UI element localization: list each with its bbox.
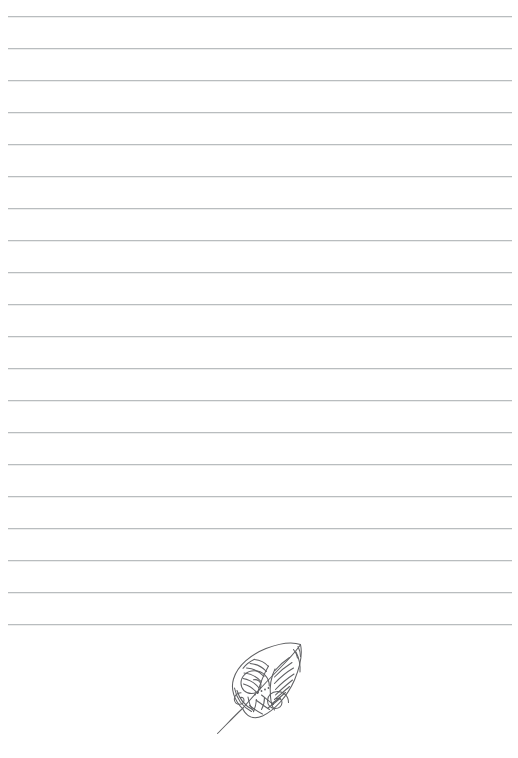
leaf-ornament bbox=[0, 0, 518, 758]
leaf-leaflets bbox=[243, 659, 269, 693]
leaf-stem bbox=[218, 708, 244, 734]
leaf-spirals bbox=[234, 671, 288, 709]
notebook-page: Lined Notebook Page bbox=[0, 0, 518, 758]
leaf-outline bbox=[232, 643, 301, 718]
leaf-dot-row bbox=[254, 687, 269, 695]
leaf-ornament-svg bbox=[0, 0, 518, 758]
leaf-drawing bbox=[218, 643, 302, 733]
leaf-feather-veins bbox=[268, 652, 300, 710]
